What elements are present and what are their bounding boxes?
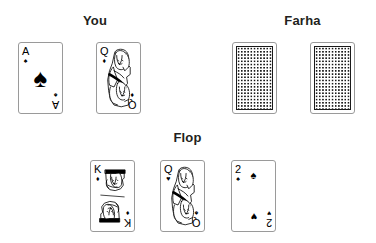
diamond-icon: ♦ xyxy=(131,92,135,99)
spade-icon-center: ♠ xyxy=(34,65,48,91)
spade-icon: ♠ xyxy=(195,210,199,217)
card-rank: 2 xyxy=(266,217,272,228)
card-back-pattern xyxy=(236,46,273,110)
card-rank: A xyxy=(52,99,59,110)
group-label-farha: Farha xyxy=(265,13,340,28)
card-farha-2-face-down xyxy=(310,42,355,114)
card-index-bottom-right: A ♠ xyxy=(52,92,59,110)
card-rank: Q xyxy=(100,46,109,57)
card-flop-1-king-diamonds: K ♦ K ♦ xyxy=(90,160,135,232)
card-rank: Q xyxy=(164,164,173,175)
heart-icon-pip-bottom: ♥ xyxy=(250,211,257,222)
card-rank: Q xyxy=(192,217,201,228)
heart-icon: ♥ xyxy=(267,210,271,217)
diamond-icon: ♦ xyxy=(96,175,100,182)
group-label-you: You xyxy=(60,13,130,28)
poker-illustration: You A ♠ ♠ A ♠ xyxy=(0,0,376,243)
card-index-top-left: Q ♥ xyxy=(164,164,173,182)
card-flop-3-two: 2 ♠ ♠ ♥ 2 ♥ xyxy=(231,160,276,232)
card-back-pattern xyxy=(314,46,351,110)
card-index-top-left: A ♠ xyxy=(22,46,29,64)
spade-icon: ♠ xyxy=(236,175,240,182)
spade-icon: ♠ xyxy=(53,92,57,99)
card-rank: 2 xyxy=(235,164,241,175)
spade-icon: ♠ xyxy=(24,57,28,64)
card-flop-2-queen: Q ♥ Q ♠ xyxy=(160,160,205,232)
card-rank: Q xyxy=(128,99,137,110)
card-rank: K xyxy=(124,217,131,228)
card-index-bottom-right: Q ♦ xyxy=(128,92,137,110)
king-portrait-artwork xyxy=(99,163,126,229)
card-you-2-queen-diamonds: Q ♦ Q ♦ xyxy=(96,42,141,114)
card-index-bottom-right: Q ♠ xyxy=(192,210,201,228)
card-index-top-left: Q ♦ xyxy=(100,46,109,64)
card-index-top-left: K ♦ xyxy=(94,164,101,182)
diamond-icon: ♦ xyxy=(126,210,130,217)
card-index-bottom-right: K ♦ xyxy=(124,210,131,228)
card-rank: A xyxy=(22,46,29,57)
spade-icon-pip-top: ♠ xyxy=(251,170,257,181)
card-rank: K xyxy=(94,164,101,175)
card-you-1-ace-spades: A ♠ ♠ A ♠ xyxy=(18,42,63,114)
diamond-icon: ♦ xyxy=(102,57,106,64)
card-farha-1-face-down xyxy=(232,42,277,114)
heart-icon: ♥ xyxy=(166,175,170,182)
card-index-top-left: 2 ♠ xyxy=(235,164,241,182)
card-index-bottom-right: 2 ♥ xyxy=(266,210,272,228)
group-label-flop: Flop xyxy=(150,130,225,145)
